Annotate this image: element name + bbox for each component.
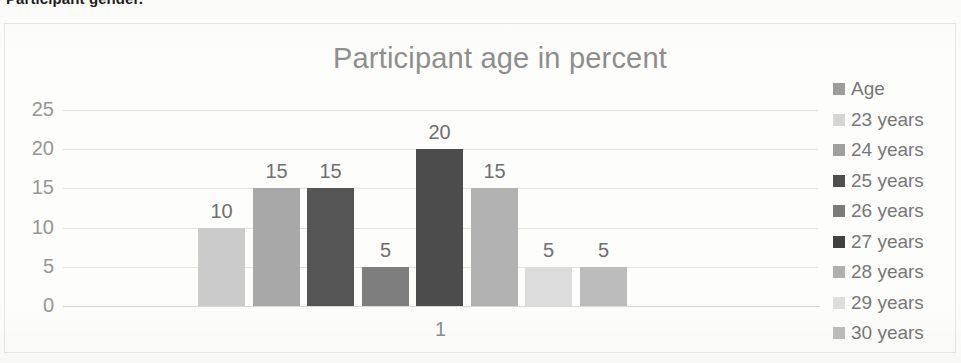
- gridline: [63, 110, 818, 111]
- legend-item[interactable]: 25 years: [833, 166, 953, 197]
- bar-value-label: 5: [558, 239, 649, 261]
- bar-30-years[interactable]: [580, 267, 627, 306]
- bar-value-label: 15: [449, 160, 540, 182]
- legend-item[interactable]: 30 years: [833, 318, 953, 349]
- legend-label: 29 years: [851, 292, 924, 314]
- legend-swatch-icon: [833, 266, 845, 278]
- legend-label: Age: [851, 78, 885, 100]
- legend-swatch-icon: [833, 144, 845, 156]
- bar-23-years[interactable]: [198, 228, 245, 306]
- y-axis-tick-label: 10: [14, 217, 54, 237]
- y-axis-tick-label: 15: [14, 177, 54, 197]
- legend-swatch-icon: [833, 236, 845, 248]
- legend-item[interactable]: 28 years: [833, 257, 953, 288]
- y-axis-tick-label: 0: [14, 295, 54, 315]
- legend-swatch-icon: [833, 83, 845, 95]
- x-axis-category-label: 1: [63, 318, 818, 341]
- bar-26-years[interactable]: [362, 267, 409, 306]
- legend-swatch-icon: [833, 114, 845, 126]
- legend-label: 30 years: [851, 322, 924, 344]
- legend-label: 24 years: [851, 139, 924, 161]
- bar-24-years[interactable]: [253, 188, 300, 306]
- legend-label: 23 years: [851, 109, 924, 131]
- legend-label: 26 years: [851, 200, 924, 222]
- legend-item[interactable]: Age: [833, 74, 953, 105]
- x-axis-line: [63, 306, 820, 307]
- chart-title: Participant age in percent: [180, 42, 820, 75]
- chart-legend: Age23 years24 years25 years26 years27 ye…: [833, 74, 953, 349]
- y-axis: 2520151050: [8, 110, 54, 306]
- legend-swatch-icon: [833, 327, 845, 339]
- legend-item[interactable]: 29 years: [833, 288, 953, 319]
- bar-29-years[interactable]: [525, 267, 572, 306]
- legend-item[interactable]: 26 years: [833, 196, 953, 227]
- legend-label: 25 years: [851, 170, 924, 192]
- legend-swatch-icon: [833, 205, 845, 217]
- legend-item[interactable]: 24 years: [833, 135, 953, 166]
- legend-label: 27 years: [851, 231, 924, 253]
- legend-item[interactable]: 27 years: [833, 227, 953, 258]
- legend-swatch-icon: [833, 297, 845, 309]
- bar-value-label: 20: [394, 121, 485, 143]
- bar-value-label: 15: [285, 160, 376, 182]
- cutoff-page-caption: Participant gender.: [6, 0, 143, 9]
- legend-label: 28 years: [851, 261, 924, 283]
- y-axis-tick-label: 5: [14, 256, 54, 276]
- y-axis-tick-label: 25: [14, 99, 54, 119]
- plot-area: 1015155201555: [63, 110, 818, 306]
- legend-swatch-icon: [833, 175, 845, 187]
- legend-item[interactable]: 23 years: [833, 105, 953, 136]
- y-axis-tick-label: 20: [14, 138, 54, 158]
